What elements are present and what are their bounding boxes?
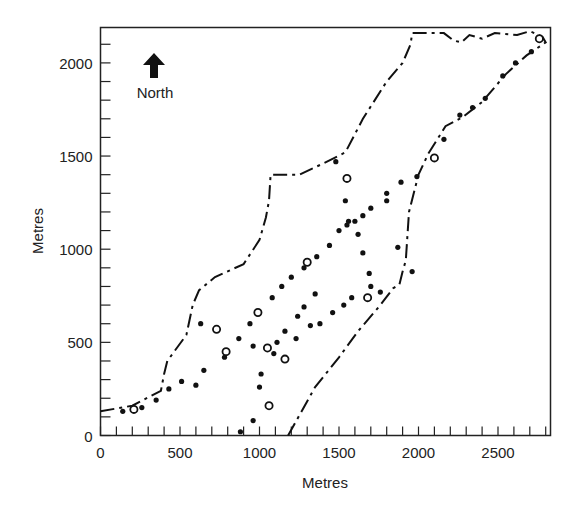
filled-point: [355, 232, 360, 237]
chart-svg: 050010001500200025000500100015002000 Nor…: [0, 0, 579, 522]
x-axis-title: Metres: [302, 474, 348, 491]
open-point: [264, 344, 271, 351]
filled-point: [470, 105, 475, 110]
filled-point: [251, 418, 256, 423]
filled-point: [398, 180, 403, 185]
open-point: [364, 294, 371, 301]
open-point: [281, 356, 288, 363]
filled-point: [179, 379, 184, 384]
filled-point: [343, 198, 348, 203]
filled-point: [368, 284, 373, 289]
x-tick-label: 1500: [322, 444, 355, 461]
north-label: North: [137, 84, 174, 101]
filled-point: [317, 321, 322, 326]
filled-point: [308, 323, 313, 328]
filled-point: [154, 398, 159, 403]
filled-point: [314, 254, 319, 259]
filled-point: [410, 269, 415, 274]
open-point: [223, 348, 230, 355]
filled-point: [352, 219, 357, 224]
filled-point: [336, 228, 341, 233]
open-point: [254, 309, 261, 316]
filled-point: [274, 340, 279, 345]
y-tick-label: 1000: [59, 241, 92, 258]
filled-point: [457, 112, 462, 117]
filled-point: [349, 295, 354, 300]
open-point: [536, 35, 543, 42]
filled-point: [293, 336, 298, 341]
filled-point: [513, 60, 518, 65]
filled-point: [333, 159, 338, 164]
filled-point: [529, 49, 534, 54]
x-tick-label: 500: [167, 444, 192, 461]
filled-point: [257, 384, 262, 389]
filled-point: [360, 250, 365, 255]
x-tick-label: 0: [96, 444, 104, 461]
open-point: [343, 175, 350, 182]
filled-point: [313, 291, 318, 296]
filled-point: [251, 343, 256, 348]
filled-point: [139, 405, 144, 410]
x-tick-label: 2500: [481, 444, 514, 461]
filled-point: [330, 310, 335, 315]
filled-point: [295, 314, 300, 319]
y-tick-label: 2000: [59, 55, 92, 72]
y-tick-label: 500: [67, 334, 92, 351]
filled-point: [384, 191, 389, 196]
filled-point: [384, 198, 389, 203]
filled-point: [441, 137, 446, 142]
open-point: [265, 402, 272, 409]
filled-point: [346, 219, 351, 224]
filled-point: [236, 336, 241, 341]
filled-point: [368, 206, 373, 211]
filled-point: [201, 368, 206, 373]
filled-point: [120, 409, 125, 414]
y-tick-label: 0: [84, 428, 92, 445]
filled-point: [378, 289, 383, 294]
filled-point: [341, 302, 346, 307]
filled-point: [395, 245, 400, 250]
filled-point: [289, 275, 294, 280]
filled-point: [360, 213, 365, 218]
north-arrow-icon: [143, 53, 165, 78]
x-tick-label: 1000: [243, 444, 276, 461]
filled-point: [258, 371, 263, 376]
filled-point: [282, 329, 287, 334]
filled-point: [271, 351, 276, 356]
filled-point: [500, 73, 505, 78]
filled-point: [238, 429, 243, 434]
filled-point: [198, 321, 203, 326]
y-axis-title: Metres: [29, 208, 46, 254]
y-tick-label: 1500: [59, 148, 92, 165]
filled-point: [193, 383, 198, 388]
filled-point: [483, 96, 488, 101]
boundary-line: [288, 37, 546, 436]
open-point: [213, 326, 220, 333]
filled-point: [270, 295, 275, 300]
open-point: [130, 406, 137, 413]
open-point: [304, 259, 311, 266]
open-point: [431, 154, 438, 161]
filled-point: [166, 386, 171, 391]
x-tick-label: 2000: [402, 444, 435, 461]
filled-point: [327, 243, 332, 248]
filled-point: [247, 321, 252, 326]
filled-point: [414, 174, 419, 179]
filled-point: [301, 304, 306, 309]
filled-point: [367, 271, 372, 276]
data-points: [120, 35, 543, 434]
filled-point: [279, 284, 284, 289]
